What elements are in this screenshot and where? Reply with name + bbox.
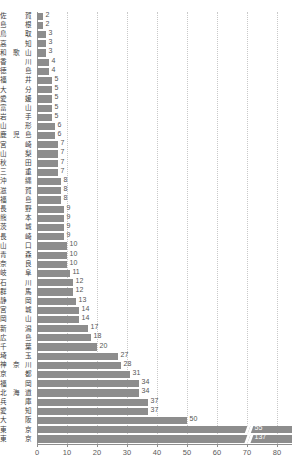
bar bbox=[37, 279, 73, 286]
x-tick-30 bbox=[127, 444, 128, 447]
bar-value-label: 28 bbox=[124, 360, 132, 368]
bar bbox=[37, 141, 58, 148]
bar bbox=[37, 224, 64, 231]
category-label: 大分 bbox=[0, 86, 34, 94]
x-tick-40 bbox=[157, 444, 158, 447]
bar-value-label: 9 bbox=[67, 222, 71, 230]
bar-value-label: 11 bbox=[73, 268, 80, 276]
bar bbox=[37, 40, 46, 47]
category-axis-labels: 佐賀島根鳥取高知和歌山香川徳島福井大分愛媛富山岩手山形鹿児島宮崎山梨秋田三重沖縄… bbox=[0, 12, 36, 444]
bar-row: 8 bbox=[37, 187, 292, 195]
bar bbox=[37, 114, 52, 121]
bar bbox=[37, 288, 73, 295]
category-label: 大阪 bbox=[0, 416, 34, 424]
bar-value-label: 5 bbox=[55, 84, 59, 92]
bar-row: 9 bbox=[37, 223, 292, 231]
bar-row: 17 bbox=[37, 325, 292, 333]
bar-row: 7 bbox=[37, 159, 292, 167]
category-label: 鹿児島 bbox=[0, 131, 34, 139]
bar-value-label: 34 bbox=[142, 387, 150, 395]
bar-value-label: 9 bbox=[67, 231, 71, 239]
category-label: 青森 bbox=[0, 251, 34, 259]
bar-value-label: 10 bbox=[70, 240, 78, 248]
bar-row: 7 bbox=[37, 141, 292, 149]
bar-row: 27 bbox=[37, 352, 292, 360]
bar-row: 9 bbox=[37, 214, 292, 222]
bar-value-label: 50 bbox=[190, 415, 198, 423]
category-label: 佐賀 bbox=[0, 12, 34, 20]
bar bbox=[37, 242, 67, 249]
bar-row: 5 bbox=[37, 86, 292, 94]
bar-value-label: 14 bbox=[82, 314, 90, 322]
bar-value-label: 13 bbox=[79, 296, 87, 304]
bar-value-label: 4 bbox=[52, 66, 56, 74]
bar bbox=[37, 408, 148, 415]
category-label: 滋賀 bbox=[0, 187, 34, 195]
bar-value-label: 9 bbox=[67, 213, 71, 221]
bar-value-label: 3 bbox=[49, 47, 53, 55]
category-label: 石川 bbox=[0, 279, 34, 287]
bar bbox=[37, 86, 52, 93]
category-label: 高知 bbox=[0, 40, 34, 48]
bar-value-label: 37 bbox=[151, 397, 159, 405]
category-label: 沖縄 bbox=[0, 177, 34, 185]
x-tick-label: 40 bbox=[153, 448, 161, 457]
category-label: 和歌山 bbox=[0, 49, 34, 57]
bar-row: 137 bbox=[37, 435, 292, 443]
category-label: 静岡 bbox=[0, 297, 34, 305]
bar-value-label: 3 bbox=[49, 38, 53, 46]
category-label: 宮城 bbox=[0, 306, 34, 314]
bar-value-label: 5 bbox=[55, 112, 59, 120]
bar bbox=[37, 160, 58, 167]
bar-value-label: 17 bbox=[91, 323, 99, 331]
x-tick-20 bbox=[97, 444, 98, 447]
bar bbox=[37, 68, 49, 75]
category-label: 宮崎 bbox=[0, 141, 34, 149]
category-label: 広島 bbox=[0, 334, 34, 342]
bar bbox=[37, 206, 64, 213]
bar-value-label: 4 bbox=[52, 57, 56, 65]
x-tick-label: 80 bbox=[273, 448, 281, 457]
bar bbox=[37, 22, 43, 29]
category-label: 岐阜 bbox=[0, 269, 34, 277]
bar bbox=[37, 417, 187, 424]
x-tick-label: 10 bbox=[63, 448, 71, 457]
x-tick-label: 70 bbox=[243, 448, 251, 457]
bar-row: 4 bbox=[37, 58, 292, 66]
category-label: 千葉 bbox=[0, 343, 34, 351]
category-label: 山口 bbox=[0, 242, 34, 250]
bar bbox=[37, 353, 118, 360]
bar-row: 31 bbox=[37, 370, 292, 378]
bar-row: 14 bbox=[37, 315, 292, 323]
bar-value-label: 2 bbox=[46, 20, 50, 28]
bar bbox=[37, 389, 139, 396]
bar-value-label: 31 bbox=[133, 369, 141, 377]
bar-value-label: 14 bbox=[82, 305, 90, 313]
bar-value-label: 10 bbox=[70, 259, 78, 267]
category-label: 三重 bbox=[0, 168, 34, 176]
category-label: 神奈川 bbox=[0, 361, 34, 369]
bar bbox=[37, 178, 61, 185]
bar-value-label: 6 bbox=[58, 121, 62, 129]
bar-value-label: 8 bbox=[64, 185, 68, 193]
bar-value-label: 20 bbox=[100, 342, 108, 350]
bar bbox=[37, 261, 67, 268]
category-label: 長崎 bbox=[0, 233, 34, 241]
x-tick-50 bbox=[187, 444, 188, 447]
bar bbox=[37, 270, 70, 277]
x-tick-label: 20 bbox=[93, 448, 101, 457]
x-axis-line bbox=[37, 444, 292, 445]
x-tick-70 bbox=[247, 444, 248, 447]
category-label: 奈良 bbox=[0, 260, 34, 268]
bar-row: 18 bbox=[37, 334, 292, 342]
category-label: 福井 bbox=[0, 76, 34, 84]
bar-value-label: 137 bbox=[255, 433, 267, 441]
bar bbox=[37, 380, 139, 387]
bar bbox=[37, 371, 130, 378]
bar-row: 5 bbox=[37, 95, 292, 103]
bar bbox=[37, 343, 97, 350]
category-label: 岡山 bbox=[0, 315, 34, 323]
bar-row: 8 bbox=[37, 196, 292, 204]
category-label: 愛媛 bbox=[0, 95, 34, 103]
bar bbox=[37, 49, 46, 56]
